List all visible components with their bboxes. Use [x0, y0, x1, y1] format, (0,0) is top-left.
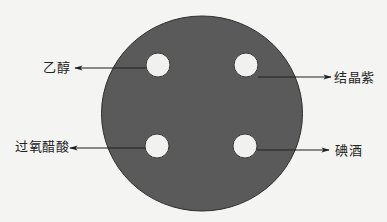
label-ethanol: 乙醇: [43, 60, 70, 75]
disc-top-left: [146, 53, 170, 77]
disc-bottom-left: [145, 134, 169, 158]
label-iodine-tincture: 碘酒: [335, 143, 362, 158]
disc-top-right: [234, 53, 258, 77]
agar-plate: [102, 16, 303, 211]
disc-bottom-right: [233, 134, 257, 158]
label-crystal-violet: 结晶紫: [334, 70, 375, 85]
diagram-canvas: [0, 0, 387, 222]
label-peracetic-acid: 过氧醋酸: [15, 139, 69, 154]
disk-diffusion-diagram: 乙醇 结晶紫 过氧醋酸 碘酒: [0, 0, 387, 222]
